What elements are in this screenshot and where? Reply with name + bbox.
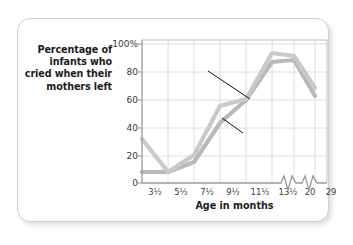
plot-area [0,0,353,245]
y-axis-ticks [137,44,142,183]
figure-root: Percentage of infants who cried when the… [0,0,353,245]
